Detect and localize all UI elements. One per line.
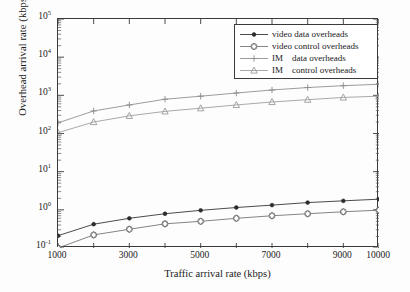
series-0 xyxy=(58,197,379,237)
series-1 xyxy=(58,207,379,248)
data-point-marker xyxy=(58,234,60,238)
y-tick-label: 101 xyxy=(21,164,51,174)
data-point-marker xyxy=(233,215,239,222)
chart-figure: Overhead arrival rate (kbps) 10-11001011… xyxy=(0,0,410,292)
legend-item-2[interactable]: IM data overheads xyxy=(239,52,373,64)
x-axis-title: Traffic arrival rate (kbps) xyxy=(57,268,378,279)
data-point-marker xyxy=(199,208,203,212)
x-tick-label: 5000 xyxy=(190,250,209,260)
plus-icon xyxy=(239,53,269,64)
legend-label: video control overheads xyxy=(272,41,358,51)
data-point-marker xyxy=(91,232,97,239)
y-tick-label: 102 xyxy=(21,126,51,136)
data-point-marker xyxy=(162,220,168,227)
data-point-marker xyxy=(163,212,167,216)
legend-item-1[interactable]: video control overheads xyxy=(239,40,373,52)
y-tick-label: 103 xyxy=(21,87,51,97)
data-point-marker xyxy=(126,102,132,108)
data-point-marker xyxy=(306,201,310,205)
legend-label: IM control overheads xyxy=(272,65,356,75)
legend-item-3[interactable]: IM control overheads xyxy=(239,64,373,76)
data-point-marker xyxy=(251,55,257,61)
data-point-marker xyxy=(340,82,346,88)
data-point-marker xyxy=(269,212,275,219)
data-point-marker xyxy=(92,222,96,226)
open-diamond-icon xyxy=(239,41,269,52)
y-tick-label: 104 xyxy=(21,49,51,59)
legend-label: video data overheads xyxy=(272,29,348,39)
open-triangle-icon xyxy=(239,65,269,76)
y-tick-label: 105 xyxy=(21,11,51,21)
data-point-marker xyxy=(90,108,96,114)
data-point-marker xyxy=(234,206,238,210)
data-point-marker xyxy=(127,216,131,220)
data-point-marker xyxy=(376,81,379,87)
chart-legend: video data overheadsvideo control overhe… xyxy=(234,24,378,79)
data-point-marker xyxy=(305,210,311,217)
x-tick-label: 10000 xyxy=(366,250,390,260)
data-point-marker xyxy=(198,218,204,225)
data-point-marker xyxy=(377,197,379,201)
data-point-marker xyxy=(304,84,310,90)
y-tick-label: 100 xyxy=(21,202,51,212)
data-point-marker xyxy=(341,199,345,203)
data-point-marker xyxy=(126,226,132,233)
data-point-marker xyxy=(162,96,168,102)
series-2 xyxy=(58,81,379,126)
x-tick-label: 7000 xyxy=(262,250,281,260)
filled-circle-icon xyxy=(239,29,269,40)
data-point-marker xyxy=(58,245,61,248)
x-tick-label: 3000 xyxy=(119,250,138,260)
legend-item-0[interactable]: video data overheads xyxy=(239,28,373,40)
data-point-marker xyxy=(251,43,257,50)
data-point-marker xyxy=(197,93,203,99)
x-tick-label: 9000 xyxy=(333,250,352,260)
data-point-marker xyxy=(233,90,239,96)
x-tick-label: 1000 xyxy=(48,250,67,260)
y-tick-label: 10-1 xyxy=(21,240,51,250)
data-point-marker xyxy=(340,208,346,215)
data-point-marker xyxy=(252,32,256,36)
series-3 xyxy=(58,93,379,136)
data-point-marker xyxy=(58,120,61,126)
legend-label: IM data overheads xyxy=(272,53,346,63)
data-point-marker xyxy=(269,87,275,93)
data-point-marker xyxy=(270,203,274,207)
data-point-marker xyxy=(376,207,379,214)
